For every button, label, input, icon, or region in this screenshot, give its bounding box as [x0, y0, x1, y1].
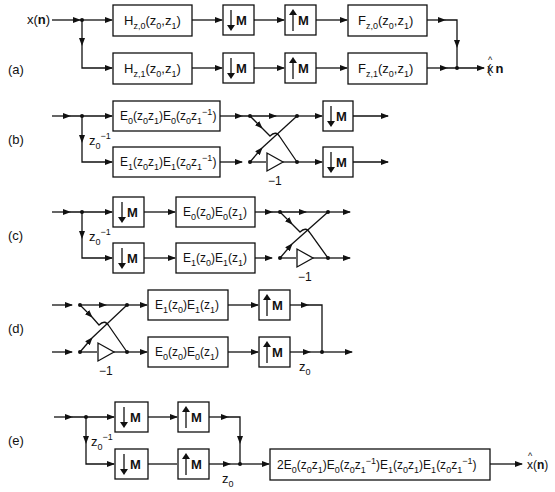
polyphase-filter-c0: E0(z0)E0(z1): [176, 197, 255, 227]
expander-d1: M: [259, 337, 290, 367]
delay-label-e-in: z0−1: [91, 432, 113, 452]
decimator-b1: M: [323, 147, 353, 177]
decimator-c1: M: [113, 243, 144, 273]
panel-label-c: (c): [8, 228, 23, 243]
synthesis-filter-f1: Fz,1(z0,z1): [348, 53, 427, 84]
polyphase-filter-c1: E1(z0)E1(z1): [176, 243, 255, 273]
svg-text:M: M: [127, 205, 138, 220]
expander-a1: M: [285, 53, 316, 83]
decimator-a1: M: [223, 53, 254, 83]
panel-label-a: (a): [8, 62, 24, 77]
expander-d0: M: [259, 290, 290, 320]
panel-c: (c) z0−1 M M E0(z0)E0(z1) E1(z0)E1(z1): [8, 197, 350, 284]
panel-label-e: (e): [8, 433, 24, 448]
multirate-filterbank-diagram: (a) x(n) Hz,0(z0,z1) Hz,1(z0,z1) M M: [0, 0, 555, 492]
svg-text:M: M: [130, 410, 141, 425]
input-signal-label: x(n): [27, 12, 50, 27]
svg-text:M: M: [336, 155, 347, 170]
polyphase-filter-b0: E0(z0z1)E0(z0z1−1): [113, 101, 220, 131]
svg-text:M: M: [336, 109, 347, 124]
butterfly-d: −1: [52, 303, 129, 378]
svg-text:M: M: [272, 298, 283, 313]
svg-text:M: M: [272, 345, 283, 360]
svg-text:M: M: [191, 457, 202, 472]
decimator-a0: M: [223, 5, 254, 35]
svg-text:−1: −1: [99, 364, 113, 378]
expander-e1: M: [178, 449, 209, 479]
decimator-c0: M: [113, 197, 144, 227]
polyphase-filter-d0: E1(z0)E1(z1): [148, 290, 228, 320]
decimator-e1: M: [115, 449, 148, 479]
expander-e0: M: [178, 402, 209, 432]
svg-text:M: M: [127, 251, 138, 266]
decimator-e0: M: [115, 402, 148, 432]
delay-label-d: z0: [299, 359, 311, 377]
delay-label-e-out: z0: [222, 471, 234, 489]
panel-d: (d) −1 E1(z0)E1(z1) E0(z0): [8, 290, 352, 378]
svg-text:−1: −1: [268, 174, 282, 188]
synthesis-filter-f0: Fz,0(z0,z1): [348, 5, 427, 36]
panel-e: (e) z0−1 M M M M: [8, 402, 548, 489]
svg-text:M: M: [236, 61, 247, 76]
butterfly-c: −1: [255, 210, 330, 284]
expander-a0: M: [285, 5, 316, 35]
analysis-filter-h1: Hz,1(z0,z1): [113, 53, 192, 84]
decimator-b0: M: [323, 101, 353, 131]
panel-b: (b) z0−1 E0(z0z1)E0(z0z1−1) E1(z0z1)E1(z…: [8, 101, 388, 188]
delay-label-b: z0−1: [89, 131, 111, 151]
combined-filter-e: 2E0(z0z1)E0(z0z1−1)E1(z0z1)E1(z0z1−1): [270, 449, 490, 480]
butterfly-b: −1: [220, 114, 299, 188]
svg-text:M: M: [298, 61, 309, 76]
delay-label-c: z0−1: [89, 227, 111, 247]
polyphase-filter-d1: E0(z0)E0(z1): [148, 337, 228, 367]
svg-text:M: M: [191, 410, 202, 425]
svg-text:M: M: [130, 457, 141, 472]
panel-a: (a) x(n) Hz,0(z0,z1) Hz,1(z0,z1) M M: [8, 5, 504, 84]
polyphase-filter-b1: E1(z0z1)E1(z0z1−1): [113, 147, 220, 177]
svg-text:−1: −1: [298, 270, 312, 284]
svg-text:M: M: [236, 13, 247, 28]
panel-label-d: (d): [8, 321, 24, 336]
panel-label-b: (b): [8, 132, 24, 147]
analysis-filter-h0: Hz,0(z0,z1): [113, 5, 192, 36]
svg-text:M: M: [298, 13, 309, 28]
